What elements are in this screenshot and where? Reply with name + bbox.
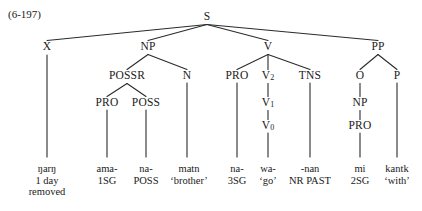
- tree-node-label-text: TNS: [299, 69, 321, 81]
- tree-node-p: P: [394, 70, 401, 82]
- leaf-line: ‘go’: [259, 175, 277, 187]
- tree-node-label-text: O: [356, 69, 365, 81]
- tree-node-label-text: V: [264, 40, 273, 52]
- tree-node-pro3: PRO: [349, 120, 372, 132]
- tree-node-np2: NP: [352, 97, 367, 109]
- leaf-v0: wa-‘go’: [259, 163, 277, 186]
- leaf-line: 2SG: [351, 175, 370, 187]
- leaf-line: na-: [133, 163, 158, 175]
- leaf-pro1: ama-1SG: [97, 163, 118, 186]
- tree-node-subscript: 0: [270, 123, 274, 132]
- leaf-line: NR PAST: [289, 175, 331, 187]
- tree-node-pp: PP: [371, 41, 384, 53]
- tree-node-o: O: [356, 70, 365, 82]
- tree-node-label-text: PRO: [349, 119, 372, 131]
- tree-branch: [47, 25, 207, 41]
- tree-node-v: V: [264, 41, 273, 53]
- leaf-line: matn: [170, 163, 208, 175]
- tree-branch: [237, 55, 268, 70]
- tree-branch: [127, 55, 148, 70]
- leaf-pro3: mi2SG: [351, 163, 370, 186]
- leaf-line: ‘brother’: [170, 175, 208, 187]
- leaf-line: kantk: [384, 163, 410, 175]
- leaf-line: wa-: [259, 163, 277, 175]
- leaf-line: na-: [228, 163, 247, 175]
- tree-branch: [268, 55, 310, 70]
- leaf-line: POSS: [133, 175, 158, 187]
- leaf-line: ‘with’: [384, 175, 410, 187]
- tree-node-subscript: 2: [270, 73, 274, 82]
- leaf-line: ŋarŋ: [29, 163, 66, 175]
- tree-node-label-text: V: [262, 96, 271, 108]
- leaf-poss: na-POSS: [133, 163, 158, 186]
- tree-node-label-text: N: [183, 69, 192, 81]
- leaf-x: ŋarŋ1 dayremoved: [29, 163, 66, 198]
- tree-branch: [107, 84, 127, 97]
- leaf-line: 3SG: [228, 175, 247, 187]
- leaf-line: 1 day: [29, 175, 66, 187]
- tree-node-pro1: PRO: [226, 70, 249, 82]
- leaf-line: mi: [351, 163, 370, 175]
- tree-node-s: S: [204, 11, 211, 23]
- tree-node-v2: V2: [262, 70, 275, 83]
- tree-branch: [127, 84, 146, 97]
- tree-node-label-text: POSSR: [109, 69, 145, 81]
- tree-branch: [360, 55, 378, 70]
- leaf-p: kantk‘with’: [384, 163, 410, 186]
- tree-node-label-text: NP: [140, 40, 155, 52]
- tree-node-v0: V0: [262, 120, 275, 133]
- tree-node-label-text: PRO: [226, 69, 249, 81]
- tree-branch: [148, 55, 187, 70]
- leaf-line: -nan: [289, 163, 331, 175]
- tree-node-pro2: PRO: [96, 97, 119, 109]
- tree-node-poss: POSS: [132, 97, 160, 109]
- leaf-n: matn‘brother’: [170, 163, 208, 186]
- tree-node-v1: V1: [262, 97, 275, 110]
- tree-branch: [378, 55, 397, 70]
- tree-node-label-text: P: [394, 69, 401, 81]
- tree-node-tns: TNS: [299, 70, 321, 82]
- tree-node-x: X: [43, 41, 52, 53]
- tree-branch: [207, 25, 378, 41]
- tree-node-label-text: V: [262, 69, 271, 81]
- tree-node-n: N: [183, 70, 192, 82]
- tree-node-np: NP: [140, 41, 155, 53]
- tree-node-label-text: S: [204, 10, 211, 22]
- tree-node-label-text: V: [262, 119, 271, 131]
- tree-node-label-text: X: [43, 40, 52, 52]
- tree-node-subscript: 1: [270, 100, 274, 109]
- tree-node-label-text: PP: [371, 40, 384, 52]
- tree-node-label-text: POSS: [132, 96, 160, 108]
- syntax-tree-figure: (6-197) SXNPVPPPOSSRNPROV2TNSOPPROPOSSV1…: [0, 0, 422, 211]
- leaf-line: removed: [29, 186, 66, 198]
- leaf-tns: -nanNR PAST: [289, 163, 331, 186]
- tree-node-label-text: PRO: [96, 96, 119, 108]
- tree-node-possr: POSSR: [109, 70, 145, 82]
- leaf-pro2: na-3SG: [228, 163, 247, 186]
- leaf-line: ama-: [97, 163, 118, 175]
- tree-node-label-text: NP: [352, 96, 367, 108]
- leaf-line: 1SG: [97, 175, 118, 187]
